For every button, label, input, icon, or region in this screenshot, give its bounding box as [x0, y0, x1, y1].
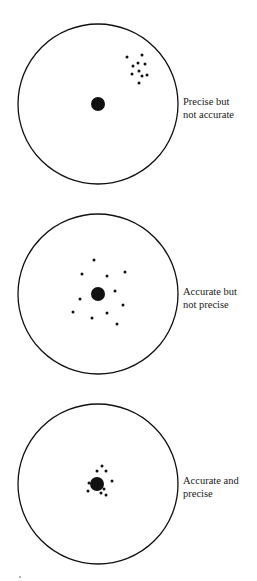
shot-dot	[114, 290, 117, 293]
shot-dot	[138, 70, 141, 73]
target-accurate-and-precise	[18, 404, 178, 564]
shot-dot	[126, 56, 129, 59]
shot-dot	[116, 323, 119, 326]
shot-dot	[141, 54, 144, 57]
label-line: Precise but	[183, 95, 234, 108]
label-line: Accurate and	[183, 474, 239, 487]
shot-dot	[141, 75, 144, 78]
shot-dot	[101, 465, 104, 468]
shot-dot	[111, 480, 114, 483]
shot-dot	[91, 317, 94, 320]
shot-dot	[124, 271, 127, 274]
shot-dot	[106, 312, 109, 315]
target-accurate-not-precise	[18, 214, 178, 374]
label-accurate-and-precise: Accurate and precise	[183, 474, 239, 500]
shot-dot	[81, 273, 84, 276]
shot-dot	[146, 74, 149, 77]
shot-dot	[105, 494, 108, 497]
bullseye-dot	[91, 97, 105, 111]
shot-dot	[88, 482, 91, 485]
label-line: precise	[183, 487, 239, 500]
shot-dot	[138, 82, 141, 85]
target-precise-not-accurate	[18, 24, 178, 184]
label-accurate-not-precise: Accurate but not precise	[183, 285, 237, 311]
shot-dot	[137, 62, 140, 65]
shot-dot	[79, 298, 82, 301]
label-precise-not-accurate: Precise but not accurate	[183, 95, 234, 121]
shot-dot	[122, 304, 125, 307]
shot-dot	[132, 65, 135, 68]
shot-dot	[87, 490, 90, 493]
bullseye-dot	[91, 287, 105, 301]
bullseye-dot	[90, 477, 104, 491]
stray-speck	[19, 576, 21, 578]
shot-dot	[93, 259, 96, 262]
shot-dot	[106, 275, 109, 278]
label-line: Accurate but	[183, 285, 237, 298]
shot-dot	[100, 492, 103, 495]
shot-dot	[103, 488, 106, 491]
shot-dot	[144, 63, 147, 66]
label-line: not accurate	[183, 108, 234, 121]
shot-dot	[96, 470, 99, 473]
label-line: not precise	[183, 298, 237, 311]
shot-dot	[131, 73, 134, 76]
shot-dot	[72, 311, 75, 314]
shot-dot	[105, 470, 108, 473]
